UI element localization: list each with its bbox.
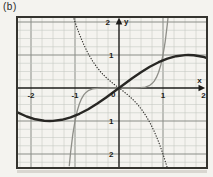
x-tick-label: -2 [27, 91, 35, 100]
y-tick-label: 2 [109, 150, 114, 159]
y-axis-name: y [124, 17, 129, 26]
x-tick-label: -1 [71, 91, 79, 100]
x-axis-name: x [197, 76, 202, 85]
plot-canvas: -2-11221120xy [0, 0, 213, 177]
dotted-cubic-curve [72, 14, 169, 175]
y-tick-label: 1 [109, 51, 114, 60]
y-tick-label: 2 [106, 18, 111, 27]
y-tick-label: 1 [109, 117, 114, 126]
x-tick-label: 2 [201, 91, 206, 100]
origin-label: 0 [111, 90, 116, 99]
scan-shadow [17, 170, 207, 173]
y-axis-arrow-icon [116, 18, 123, 25]
x-tick-label: 1 [161, 91, 166, 100]
